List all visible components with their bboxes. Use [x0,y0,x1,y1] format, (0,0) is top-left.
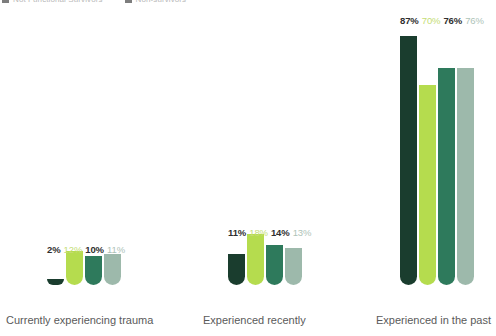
bar-value-label: 76% [443,15,462,26]
bar-value-label: 14% [271,227,290,238]
bar[interactable] [419,85,436,285]
bar-group-bars [400,36,474,285]
bar-value-label: 13% [293,227,312,238]
bar[interactable] [66,251,83,285]
bar-group-bars [228,234,302,285]
category-axis-label: Currently experiencing trauma [6,314,153,326]
bar[interactable] [247,234,264,285]
bar[interactable] [266,245,283,285]
bar-value-label: 10% [85,244,104,255]
bar[interactable] [400,36,417,285]
category-axis-label: Experienced recently [203,314,306,326]
bar-value-label-row: 87%70%76%76% [400,15,484,26]
bar-value-label: 2% [47,244,61,255]
bar[interactable] [85,256,102,285]
category-axis-label: Experienced in the past [376,314,491,326]
bar-value-label: 76% [465,15,484,26]
bar-value-label: 11% [107,244,125,255]
bar[interactable] [285,248,302,285]
bar[interactable] [228,254,245,285]
bar-value-label: 18% [249,227,268,238]
bar[interactable] [104,254,121,285]
bar[interactable] [457,68,474,285]
bar-value-label: 11% [228,227,246,238]
bar-group-bars [47,251,121,285]
bar[interactable] [438,68,455,285]
chart-plot-area: 2%12%10%11%Currently experiencing trauma… [0,0,496,336]
bar-value-label: 87% [400,15,419,26]
bar-value-label: 70% [422,15,441,26]
bar-value-label: 12% [64,244,83,255]
bar-value-label-row: 11%18%14%13% [228,227,311,238]
bar[interactable] [47,279,64,285]
bar-value-label-row: 2%12%10%11% [47,244,125,255]
